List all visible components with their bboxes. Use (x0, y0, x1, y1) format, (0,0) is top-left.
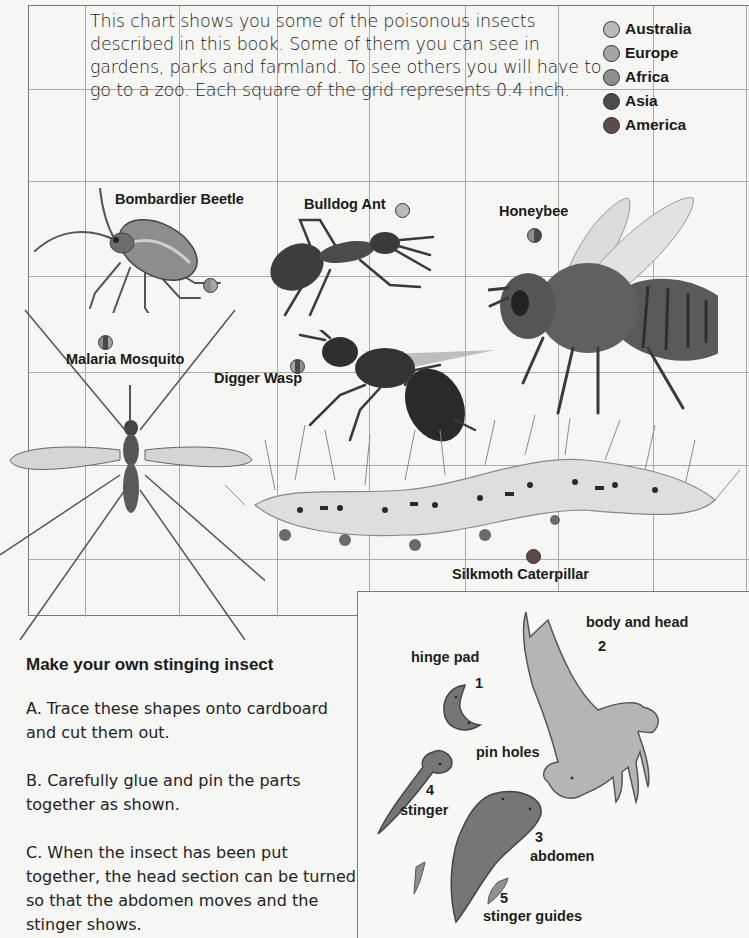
insect-label-silkmoth-caterpillar: Silkmoth Caterpillar (452, 566, 589, 582)
grid-line (746, 6, 747, 617)
part-number-2: 2 (598, 638, 606, 654)
legend-label: Asia (625, 92, 658, 110)
legend-label: Australia (625, 20, 691, 38)
region-dot-malaria-mosquito (98, 335, 113, 350)
bulldog-ant-illustration (255, 215, 440, 320)
part-label-pin-holes: pin holes (476, 744, 540, 760)
legend-label: Europe (625, 44, 678, 62)
howto-step-b: B. Carefully glue and pin the parts toge… (26, 769, 356, 817)
howto-section: Make your own stinging insect A. Trace t… (26, 655, 356, 938)
europe-dot-icon (603, 45, 620, 62)
insect-label-digger-wasp: Digger Wasp (214, 370, 302, 386)
part-label-stinger-guides: stinger guides (483, 908, 582, 924)
honeybee-illustration (488, 188, 718, 418)
australia-dot-icon (603, 21, 620, 38)
legend-item-america: America (603, 113, 691, 137)
part-number-5: 5 (500, 890, 508, 906)
region-dot-digger-wasp (290, 359, 305, 374)
insect-label-bulldog-ant: Bulldog Ant (304, 196, 386, 212)
parts-diagram-box: body and head 2 hinge pad 1 pin holes 4 … (357, 591, 749, 938)
howto-step-c: C. When the insect has been put together… (26, 841, 356, 937)
part-number-1: 1 (475, 675, 483, 691)
howto-title: Make your own stinging insect (26, 655, 356, 675)
america-dot-icon (603, 117, 620, 134)
africa-dot-icon (603, 69, 620, 86)
asia-dot-icon (603, 93, 620, 110)
part-label-abdomen: abdomen (530, 848, 594, 864)
part-number-3: 3 (535, 829, 543, 845)
howto-step-a: A. Trace these shapes onto cardboard and… (26, 697, 356, 745)
insect-label-bombardier-beetle: Bombardier Beetle (115, 191, 244, 207)
parts-shapes (358, 592, 749, 938)
legend-item-africa: Africa (603, 65, 691, 89)
part-number-4: 4 (426, 782, 434, 798)
region-dot-honeybee (527, 228, 542, 243)
intro-paragraph: This chart shows you some of the poisono… (90, 10, 610, 102)
legend-item-europe: Europe (603, 41, 691, 65)
legend-item-asia: Asia (603, 89, 691, 113)
legend-label: Africa (625, 68, 669, 86)
part-label-hinge-pad: hinge pad (411, 649, 479, 665)
insect-label-honeybee: Honeybee (499, 203, 568, 219)
insect-label-malaria-mosquito: Malaria Mosquito (66, 351, 184, 367)
legend-item-australia: Australia (603, 17, 691, 41)
part-label-body-and-head: body and head (586, 614, 688, 630)
region-dot-bulldog-ant (395, 203, 410, 218)
silkmoth-caterpillar-illustration (225, 410, 745, 560)
legend-label: America (625, 116, 686, 134)
region-dot-silkmoth-caterpillar (526, 549, 541, 564)
part-label-stinger: stinger (400, 802, 448, 818)
region-legend: Australia Europe Africa Asia America (603, 17, 691, 137)
region-dot-bombardier-beetle (203, 278, 218, 293)
grid-line (29, 181, 749, 182)
